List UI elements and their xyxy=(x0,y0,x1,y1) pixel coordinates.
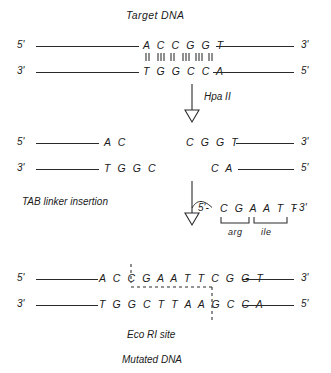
arrow-tab-linker xyxy=(185,181,212,225)
codon-bracket-arg xyxy=(221,217,249,223)
eco-ri-cut-marks xyxy=(131,264,212,322)
figure-vector-overlay xyxy=(0,0,331,373)
base-pair-bonds xyxy=(146,53,212,61)
arrow-hpa-ii xyxy=(185,84,199,122)
linker-connector-curve xyxy=(192,201,212,208)
codon-bracket-ile xyxy=(254,217,287,223)
figure-canvas: Target DNA 5' A C C G G T 3' 3' T G G C … xyxy=(0,0,331,373)
codon-brackets xyxy=(221,217,287,223)
